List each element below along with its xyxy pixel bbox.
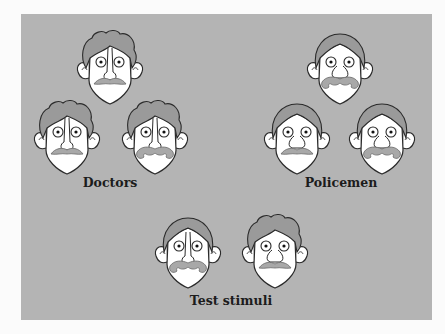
group-label-test-stimuli: Test stimuli — [190, 293, 272, 308]
face-doctor-3 — [117, 98, 193, 176]
face-policeman-3 — [344, 98, 420, 176]
face-test-1 — [150, 212, 226, 290]
face-test-2 — [237, 212, 313, 290]
face-policeman-1 — [302, 28, 378, 106]
group-label-policemen: Policemen — [305, 175, 378, 190]
face-doctor-2 — [29, 98, 105, 176]
face-doctor-1 — [72, 28, 148, 106]
face-policeman-2 — [259, 98, 335, 176]
group-label-doctors: Doctors — [83, 175, 138, 190]
